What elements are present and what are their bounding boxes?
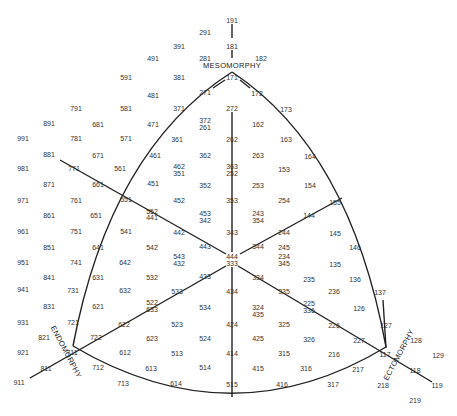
somatotype-label: 581 <box>120 105 132 112</box>
somatotype-label: 841 <box>43 274 55 281</box>
somatotype-label: 362 <box>199 152 211 159</box>
somatotype-labels: 1912911813914912811825913811714812711721… <box>13 17 444 404</box>
somatotype-label: 961 <box>17 228 29 235</box>
somatotype-label: 941 <box>17 286 29 293</box>
somatotype-label: 781 <box>70 135 82 142</box>
somatotype-label: 219 <box>409 397 421 404</box>
somatotype-label: 244 <box>278 229 290 236</box>
somatotype-label: 252 <box>226 170 238 177</box>
somatotype-label: 651 <box>90 212 102 219</box>
somatotype-label: 371 <box>173 105 185 112</box>
somatotype-label: 891 <box>43 120 55 127</box>
somatotype-label: 991 <box>17 135 29 142</box>
somatotype-label: 136 <box>349 276 361 283</box>
somatotype-label: 353 <box>226 197 238 204</box>
somatotype-label: 342 <box>199 217 211 224</box>
somatotype-label: 391 <box>173 43 185 50</box>
somatotype-label: 434 <box>226 288 238 295</box>
somatotype-label: 216 <box>328 351 340 358</box>
somatotype-label: 129 <box>432 352 444 359</box>
somatotype-label: 614 <box>170 380 182 387</box>
mesomorphy-label: MESOMORPHY <box>203 61 261 70</box>
somatotype-label: 461 <box>149 152 161 159</box>
somatotype-label: 316 <box>300 365 312 372</box>
somatotype-label: 633 <box>146 306 158 313</box>
somatotype-label: 931 <box>17 319 29 326</box>
somatotype-label: 641 <box>92 244 104 251</box>
somatotype-label: 326 <box>303 336 315 343</box>
somatotype-label: 162 <box>252 121 264 128</box>
somatotype-label: 481 <box>147 92 159 99</box>
somatotype-label: 433 <box>199 273 211 280</box>
somatotype-label: 235 <box>303 276 315 283</box>
somatotype-label: 344 <box>252 243 264 250</box>
somatotype-label: 591 <box>120 74 132 81</box>
somatotype-label: 442 <box>173 229 185 236</box>
somatotype-label: 271 <box>199 89 211 96</box>
somatotype-label: 135 <box>329 261 341 268</box>
somatotype-label: 372 <box>199 117 211 124</box>
somatotype-label: 613 <box>145 365 157 372</box>
somatotype-label: 315 <box>278 350 290 357</box>
somatotype-label: 226 <box>328 322 340 329</box>
somatotype-label: 621 <box>92 303 104 310</box>
somatotype-label: 523 <box>171 321 183 328</box>
somatotype-label: 164 <box>304 153 316 160</box>
somatotype-label: 324 <box>252 304 264 311</box>
somatotype-label: 513 <box>171 350 183 357</box>
somatotype-label: 534 <box>199 304 211 311</box>
somatotype-label: 291 <box>199 29 211 36</box>
somatotype-label: 335 <box>278 288 290 295</box>
somatotype-label: 414 <box>226 350 238 357</box>
somatotype-label: 543 <box>173 253 185 260</box>
somatotype-label: 522 <box>146 299 158 306</box>
somatotype-label: 153 <box>278 166 290 173</box>
somatotype-label: 354 <box>252 217 264 224</box>
somatotype-label: 451 <box>147 180 159 187</box>
somatotype-label: 172 <box>251 90 263 97</box>
somatotype-label: 163 <box>280 136 292 143</box>
somatotype-label: 415 <box>252 365 264 372</box>
somatotype-label: 236 <box>328 288 340 295</box>
somatotype-label: 154 <box>304 182 316 189</box>
somatotype-label: 491 <box>147 55 159 62</box>
somatotype-label: 137 <box>374 289 386 296</box>
somatotype-label: 381 <box>173 74 185 81</box>
somatotype-label: 722 <box>90 334 102 341</box>
somatotype-label: 243 <box>252 210 264 217</box>
somatotype-label: 713 <box>117 380 129 387</box>
somatotype-label: 118 <box>409 367 420 374</box>
somatotype-label: 317 <box>327 381 339 388</box>
somatotype-label: 791 <box>70 105 82 112</box>
somatotype-label: 751 <box>70 228 82 235</box>
somatotype-label: 921 <box>17 349 29 356</box>
somatotype-label: 345 <box>278 260 290 267</box>
somatotype-label: 542 <box>146 244 158 251</box>
endo-diag-upper <box>60 160 226 254</box>
somatotype-label: 227 <box>353 337 365 344</box>
somatotype-label: 881 <box>43 151 55 158</box>
somatotype-label: 911 <box>13 379 24 386</box>
somatotype-label: 771 <box>68 165 80 172</box>
somatotype-label: 731 <box>67 287 79 294</box>
somatotype-label: 424 <box>226 321 238 328</box>
somatotype-label: 117 <box>379 351 390 358</box>
somatotype-label: 951 <box>17 259 29 266</box>
somatotype-label: 851 <box>43 244 55 251</box>
somatotype-label: 533 <box>171 288 183 295</box>
somatotype-label: 712 <box>92 364 104 371</box>
somatotype-label: 245 <box>278 244 290 251</box>
somatotype-label: 811 <box>40 365 51 372</box>
somatotype-label: 234 <box>278 253 290 260</box>
endomorphy-label: ENDOMORPHY <box>49 324 84 379</box>
somatotype-label: 741 <box>70 259 82 266</box>
somatotype-label: 623 <box>146 335 158 342</box>
somatotype-label: 416 <box>276 381 288 388</box>
somatotype-label: 441 <box>146 214 158 221</box>
somatotype-label: 146 <box>349 244 361 251</box>
somatotype-label: 144 <box>303 212 315 219</box>
somatotype-label: 561 <box>114 165 126 172</box>
somatotype-label: 336 <box>303 307 315 314</box>
somatotype-label: 524 <box>199 335 211 342</box>
somatotype-label: 217 <box>352 366 364 373</box>
